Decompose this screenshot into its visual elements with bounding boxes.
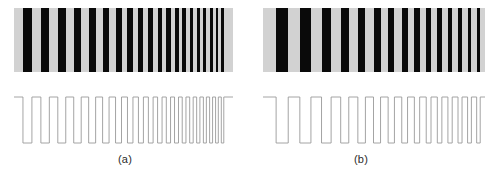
figure-root: (a) (b) [0,0,501,177]
bar-pattern-b-graphic [263,8,485,72]
panel-a: (a) [0,0,250,177]
intensity-waveform-b-graphic [263,92,485,148]
panel-label-b: (b) [236,152,486,166]
bar-pattern-a-graphic [14,8,233,72]
bar-pattern-b [263,8,485,72]
panel-b: (b) [251,0,501,177]
intensity-waveform-b [263,92,485,148]
intensity-waveform-a [14,92,233,148]
panel-label-a: (a) [0,152,250,166]
bar-pattern-a [14,8,233,72]
intensity-waveform-a-graphic [14,92,233,148]
